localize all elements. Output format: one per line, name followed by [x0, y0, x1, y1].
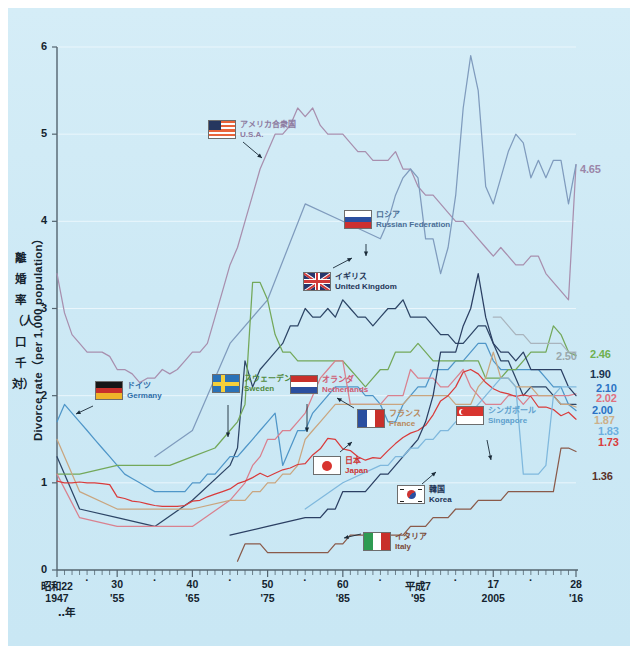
callout-label-ja: 韓国: [429, 485, 452, 495]
y-axis-label-japanese: 離婚率（人口千対）: [12, 248, 28, 395]
callout-united-kingdom[interactable]: イギリスUnited Kingdom: [303, 272, 397, 291]
flag-icon-italy: [363, 532, 391, 551]
callout-label-en: Korea: [429, 495, 452, 505]
flag-icon-japan: [313, 456, 341, 475]
x-axis-year-label-2005: 2005: [453, 592, 533, 604]
callout-arrowhead: [488, 455, 492, 460]
flag-icon-netherlands: [290, 375, 318, 394]
callout-label-germany: ドイツGermany: [127, 381, 162, 400]
callout-label-en: Russian Federation: [376, 220, 450, 230]
chart-root: 離婚率（人口千対） Divorce rate（per 1,000 populat…: [0, 0, 638, 654]
y-axis-label-english: Divorce rate（per 1,000 population）: [30, 232, 46, 441]
y-tick-label-6: 6: [29, 40, 47, 52]
end-value-label-1-73: 1.73: [598, 436, 619, 448]
flag-icon-singapore: [456, 406, 484, 425]
callout-label-sweden: スウェーデンSweden: [244, 374, 292, 393]
end-value-label-1-90: 1.90: [590, 368, 611, 380]
callout-label-ja: フランス: [389, 409, 421, 419]
x-axis-year-label-1985: '85: [303, 592, 383, 604]
callout-label-en: U.S.A.: [240, 130, 296, 140]
callout-label-united-kingdom: イギリスUnited Kingdom: [335, 272, 397, 291]
x-axis-year-label-1965: '65: [152, 592, 232, 604]
callout-label-ja: シンガポール: [488, 406, 536, 416]
end-value-label-2-46: 2.46: [590, 348, 611, 360]
y-tick-label-3: 3: [29, 302, 47, 314]
callout-label-en: Italy: [395, 542, 427, 552]
flag-icon-france: [357, 409, 385, 428]
series-line-other-grey: [493, 317, 576, 352]
callout-label-ja: 日本: [345, 456, 368, 466]
series-line-russian-federation: [155, 56, 576, 457]
callout-arrowhead: [364, 251, 368, 256]
callout-label-russian-federation: ロシアRussian Federation: [376, 210, 450, 229]
callout-label-en: Sweden: [244, 384, 292, 394]
end-value-label-2-02: 2.02: [596, 392, 617, 404]
callout-label-en: Japan: [345, 466, 368, 476]
x-axis-dot-2010: ·: [521, 574, 541, 586]
callout-france[interactable]: フランスFrance: [357, 409, 421, 428]
y-tick-label-1: 1: [29, 476, 47, 488]
flag-icon-uk: [303, 272, 331, 291]
callout-label-en: United Kingdom: [335, 282, 397, 292]
callout-label-ja: オランダ: [322, 375, 368, 385]
flag-icon-korea: [397, 485, 425, 504]
callout-label-ja: アメリカ合衆国: [240, 120, 296, 130]
x-axis-year-label-1975: '75: [228, 592, 308, 604]
callout-label-netherlands: オランダNetherlands: [322, 375, 368, 394]
flag-icon-germany: [95, 381, 123, 400]
series-line-u-s-a-: [57, 108, 576, 383]
x-axis-year-label-1955: '55: [77, 592, 157, 604]
callout-korea[interactable]: 韓国Korea: [397, 485, 452, 504]
end-value-label-2-50: 2.50: [556, 350, 577, 362]
callout-italy[interactable]: イタリアItaly: [363, 532, 427, 551]
x-axis-dot-1951: ·: [77, 574, 97, 586]
x-axis-dot-1980: ·: [295, 574, 315, 586]
callout-label-en: Germany: [127, 391, 162, 401]
callout-label-ja: ロシア: [376, 210, 450, 220]
callout-russian-federation[interactable]: ロシアRussian Federation: [344, 210, 450, 229]
flag-icon-russia: [344, 210, 372, 229]
y-tick-label-0: 0: [29, 563, 47, 575]
callout-label-korea: 韓国Korea: [429, 485, 452, 504]
callout-label-u-s-a-: アメリカ合衆国U.S.A.: [240, 120, 296, 139]
callout-singapore[interactable]: シンガポールSingapore: [456, 406, 536, 425]
callout-label-en: France: [389, 419, 421, 429]
callout-label-ja: ドイツ: [127, 381, 162, 391]
callout-label-en: Singapore: [488, 416, 536, 426]
callout-label-ja: イタリア: [395, 532, 427, 542]
callout-label-japan: 日本Japan: [345, 456, 368, 475]
y-tick-label-5: 5: [29, 127, 47, 139]
callout-label-en: Netherlands: [322, 385, 368, 395]
x-axis-dot-1960: ·: [145, 574, 165, 586]
callout-netherlands[interactable]: オランダNetherlands: [290, 375, 368, 394]
x-axis-dot-2000: ·: [446, 574, 466, 586]
x-axis-dot-1970: ·: [220, 574, 240, 586]
callout-label-italy: イタリアItaly: [395, 532, 427, 551]
x-axis-year-label-1995: '95: [378, 592, 458, 604]
y-tick-label-4: 4: [29, 214, 47, 226]
divorce-rate-line-chart: [0, 0, 638, 654]
flag-icon-usa: [208, 120, 236, 139]
callout-arrowhead: [344, 535, 349, 539]
x-axis-year-label-2016: '16: [536, 592, 616, 604]
callout-label-ja: スウェーデン: [244, 374, 292, 384]
callout-label-ja: イギリス: [335, 272, 397, 282]
y-tick-label-2: 2: [29, 389, 47, 401]
callout-germany[interactable]: ドイツGermany: [95, 381, 162, 400]
callout-label-france: フランスFrance: [389, 409, 421, 428]
callout-sweden[interactable]: スウェーデンSweden: [212, 374, 292, 393]
x-axis-era-label-2016: 28: [536, 578, 616, 590]
end-value-label-4-65: 4.65: [580, 163, 601, 175]
callout-label-singapore: シンガポールSingapore: [488, 406, 536, 425]
callout-u-s-a-[interactable]: アメリカ合衆国U.S.A.: [208, 120, 296, 139]
flag-icon-sweden: [212, 374, 240, 393]
x-axis-unit-label: ‥年: [58, 604, 75, 619]
x-axis-dot-1990: ·: [370, 574, 390, 586]
callout-japan[interactable]: 日本Japan: [313, 456, 368, 475]
end-value-label-1-36: 1.36: [592, 470, 613, 482]
